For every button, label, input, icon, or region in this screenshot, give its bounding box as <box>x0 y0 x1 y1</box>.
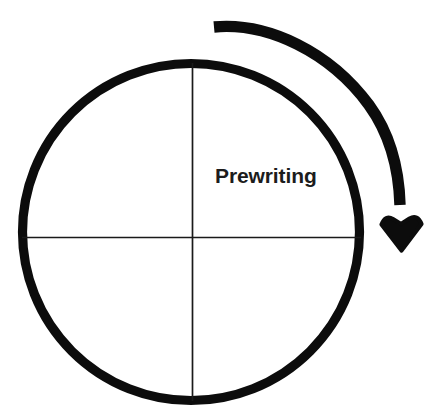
arrowhead-down-icon <box>382 217 422 250</box>
diagram-canvas <box>0 0 441 420</box>
cycle-diagram: Prewriting <box>0 0 441 420</box>
circle-outline-icon <box>23 64 360 401</box>
quadrant-label-prewriting: Prewriting <box>215 164 317 188</box>
